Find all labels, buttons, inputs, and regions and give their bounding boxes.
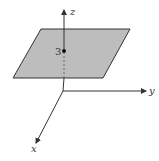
plane-z-3 [13, 29, 130, 78]
x-axis-label: x [31, 143, 37, 154]
point-z-3 [62, 49, 66, 53]
z-axis-label: z [69, 6, 76, 17]
plane-z-equals-3-diagram: 3 z y x [0, 0, 159, 161]
point-label: 3 [55, 46, 61, 57]
diagram-canvas: 3 z y x [0, 0, 159, 161]
z-axis-lower [63, 78, 64, 91]
x-axis [36, 91, 63, 143]
y-axis-label: y [148, 85, 155, 96]
